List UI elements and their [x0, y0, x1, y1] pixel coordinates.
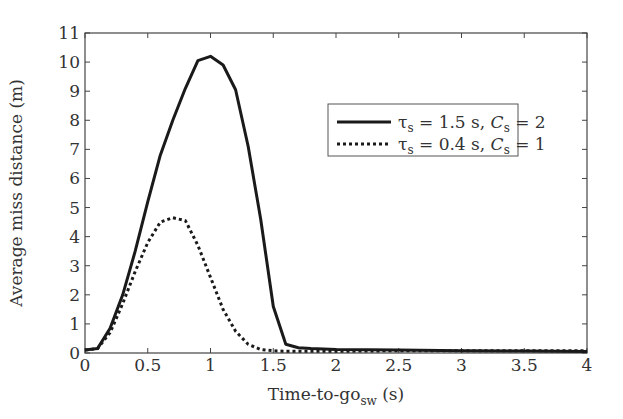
y-tick-label: 7 [69, 139, 80, 159]
series-layer [85, 56, 587, 351]
y-tick-label: 4 [69, 227, 80, 247]
x-axis-title: Time-to-gosw (s) [268, 384, 404, 408]
legend: τs = 1.5 s, Cs = 2 τs = 0.4 s, Cs = 1 [328, 104, 546, 157]
y-tick-label: 1 [69, 314, 80, 334]
y-tick-label: 0 [69, 343, 80, 363]
x-tick-label: 1 [205, 355, 216, 375]
x-tick-label: 1.5 [260, 355, 287, 375]
legend-entry-1: τs = 1.5 s, Cs = 2 [398, 112, 546, 135]
legend-entry-2: τs = 0.4 s, Cs = 1 [398, 134, 546, 157]
y-tick-label: 6 [69, 168, 80, 188]
y-axis-ticks: 01234567891011 [58, 23, 587, 363]
y-tick-label: 9 [69, 81, 80, 101]
x-tick-label: 3.5 [511, 355, 538, 375]
plot-area [85, 33, 587, 353]
x-tick-label: 3 [456, 355, 467, 375]
x-tick-label: 4 [582, 355, 593, 375]
y-tick-label: 2 [69, 285, 80, 305]
x-axis-ticks: 00.511.522.533.54 [80, 33, 593, 375]
x-tick-label: 2.5 [385, 355, 412, 375]
x-tick-label: 0 [80, 355, 91, 375]
y-tick-label: 8 [69, 110, 80, 130]
series-line-solid [85, 56, 587, 351]
axes-frame [85, 33, 587, 353]
x-tick-label: 0.5 [134, 355, 161, 375]
x-tick-label: 2 [331, 355, 342, 375]
line-chart: 00.511.522.533.54 01234567891011 Time-to… [0, 0, 623, 419]
y-tick-label: 10 [58, 52, 80, 72]
y-tick-label: 5 [69, 198, 80, 218]
y-tick-label: 11 [58, 23, 80, 43]
series-line-dotted [85, 218, 587, 352]
y-axis-title: Average miss distance (m) [6, 79, 26, 308]
y-tick-label: 3 [69, 256, 80, 276]
